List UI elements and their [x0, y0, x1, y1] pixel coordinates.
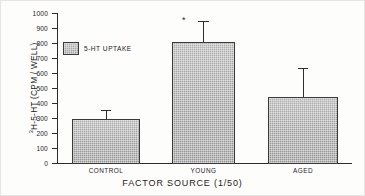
legend-swatch-icon [63, 42, 79, 55]
significance-asterisk-young: * [182, 16, 186, 25]
y-tick-label-800: 800 [36, 40, 48, 47]
error-bar-stem-young [203, 21, 204, 42]
y-tick-label-500: 500 [36, 85, 48, 92]
y-tick-label-0: 0 [44, 160, 48, 167]
x-axis-title: FACTOR SOURCE (1/50) [0, 178, 365, 188]
y-tick-label-700: 700 [36, 55, 48, 62]
y-axis-line [57, 13, 58, 164]
y-tick-label-300: 300 [36, 115, 48, 122]
error-bar-stem-aged [303, 68, 304, 97]
y-tick-label-400: 400 [36, 100, 48, 107]
y-tick-label-100: 100 [36, 145, 48, 152]
chart-legend: 5-HT UPTAKE [63, 42, 132, 55]
x-category-label-young: YOUNG [172, 167, 235, 174]
y-tick-label-1000: 1000 [33, 10, 48, 17]
legend-label: 5-HT UPTAKE [84, 45, 132, 52]
y-axis-title-superscript: 3 [28, 130, 34, 134]
y-tick-label-900: 900 [36, 25, 48, 32]
error-bar-cap-control [101, 110, 111, 111]
x-category-label-aged: AGED [268, 167, 338, 174]
bar-young[interactable] [172, 42, 235, 165]
y-tick-label-600: 600 [36, 70, 48, 77]
bar-aged[interactable] [268, 97, 338, 164]
error-bar-cap-young [198, 21, 209, 22]
bar-control[interactable] [72, 119, 140, 164]
bar-chart-figure: 3H-5-HT (CPM / WELL) 1000 900 800 700 60… [0, 0, 365, 196]
x-category-label-control: CONTROL [72, 167, 140, 174]
error-bar-cap-aged [298, 68, 308, 69]
error-bar-stem-control [106, 110, 107, 119]
y-tick-label-200: 200 [36, 130, 48, 137]
